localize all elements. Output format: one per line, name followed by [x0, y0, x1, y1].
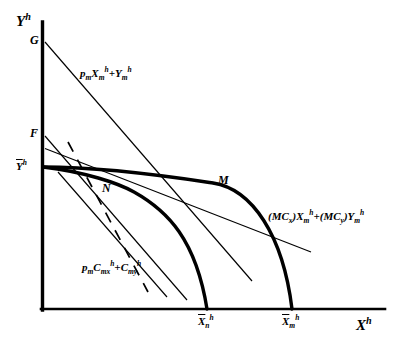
- equation-label-market-budget: pmXmh+Ymh: [80, 66, 132, 81]
- point-label-N: N: [102, 182, 111, 194]
- diagram-canvas: [0, 0, 404, 351]
- point-label-G: G: [30, 34, 39, 46]
- frontier-curves-group: [43, 167, 292, 309]
- equation-label-marginal-cost: (MCx)Xmh+(MCy)Ymh: [268, 209, 364, 224]
- tick-label-xbar-m: Xmh: [282, 314, 299, 329]
- outer-frontier-curve: [43, 167, 292, 309]
- y-axis-superscript: h: [25, 11, 31, 22]
- tick-label-xbar-n: Xnh: [198, 314, 214, 329]
- x-axis-superscript: h: [366, 315, 372, 326]
- equation-label-consumption: pmCmxh+Cmyh: [82, 260, 141, 275]
- figure-root: Yh Xh G F Yh M N Xnh Xmh pmXmh+Ymh (MCx)…: [0, 0, 404, 351]
- market-budget-line: [45, 42, 252, 281]
- x-axis-label: Xh: [356, 316, 372, 333]
- tick-marks-group: [202, 296, 292, 309]
- y-endowment-label: Yh: [16, 159, 27, 172]
- point-label-F: F: [30, 127, 38, 139]
- inner-frontier-curve: [43, 167, 207, 309]
- consumption-budget-line: [58, 172, 167, 297]
- y-axis-label: Yh: [16, 12, 31, 29]
- point-label-M: M: [218, 174, 229, 186]
